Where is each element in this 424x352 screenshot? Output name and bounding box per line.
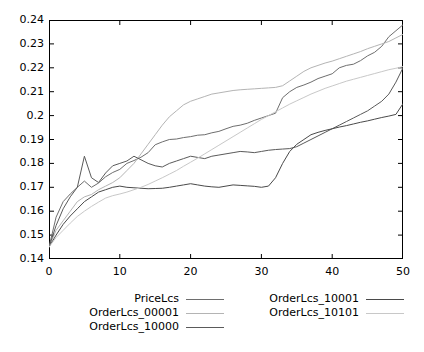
series-line-orderlcs-10000 [49, 68, 403, 247]
series-line-orderlcs-10101 [49, 67, 403, 247]
series-group [49, 25, 403, 247]
plot-area [49, 20, 403, 259]
legend-entry[interactable]: OrderLcs_10000 [0, 320, 224, 334]
x-axis-tick-label: 50 [383, 266, 423, 277]
legend-entry[interactable]: OrderLcs_10001 [0, 292, 404, 306]
x-axis-tick-label: 40 [312, 266, 352, 277]
legend-color-swatch [186, 327, 224, 328]
series-line-orderlcs-10001 [49, 104, 403, 247]
x-axis-tick-label: 0 [29, 266, 69, 277]
legend-label: OrderLcs_10001 [269, 293, 359, 305]
x-axis-tick-label: 30 [241, 266, 281, 277]
legend-label: OrderLcs_10000 [89, 321, 179, 333]
plot-border [50, 21, 403, 259]
legend-color-swatch [366, 299, 404, 300]
legend-color-swatch [366, 313, 404, 314]
plot-svg [49, 20, 403, 259]
legend-entry[interactable]: OrderLcs_10101 [0, 306, 404, 320]
x-axis-tick-label: 20 [171, 266, 211, 277]
series-line-pricelcs [49, 25, 403, 247]
line-chart: 0.140.150.160.170.180.190.20.210.220.230… [0, 0, 424, 352]
legend-label: OrderLcs_10101 [269, 307, 359, 319]
x-axis-tick-label: 10 [100, 266, 140, 277]
chart-legend: PriceLcsOrderLcs_00001OrderLcs_10000Orde… [0, 292, 424, 340]
